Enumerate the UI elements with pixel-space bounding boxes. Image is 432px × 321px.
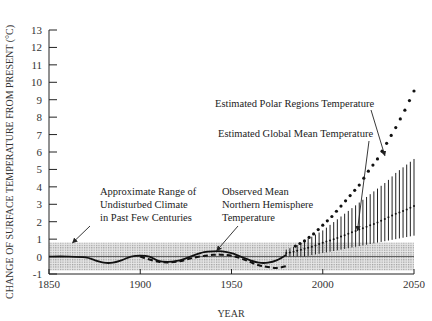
global-mean-point: [377, 222, 379, 224]
global-mean-point: [387, 216, 389, 218]
global-mean-point: [355, 230, 357, 232]
annotation-arrow: [73, 226, 90, 243]
x-tick-label: 2050: [403, 278, 426, 290]
polar-temperature-point: [326, 219, 329, 222]
y-tick-label: 8: [37, 111, 43, 123]
global-mean-point: [395, 213, 397, 215]
polar-temperature-point: [344, 199, 347, 202]
x-axis-title: YEAR: [217, 308, 245, 319]
polar-temperature-point: [390, 134, 393, 137]
global-mean-point: [351, 231, 353, 233]
global-mean-point: [398, 211, 400, 213]
global-mean-point: [344, 234, 346, 236]
polar-temperature-point: [303, 239, 306, 242]
global-mean-point: [296, 250, 298, 252]
polar-temperature-point: [298, 242, 301, 245]
y-tick-label: 3: [37, 198, 43, 210]
global-mean-point: [340, 236, 342, 238]
polar-temperature-point: [412, 89, 415, 92]
polar-temperature-point: [367, 170, 370, 173]
polar-temperature-point: [321, 224, 324, 227]
global-mean-point: [347, 233, 349, 235]
global-mean-point: [406, 209, 408, 211]
polar-temperature-point: [353, 189, 356, 192]
annotation-polar: Estimated Polar Regions Temperature: [215, 98, 385, 155]
global-mean-point: [362, 227, 364, 229]
global-mean-point: [325, 241, 327, 243]
polar-temperature-point: [330, 215, 333, 218]
y-tick-label: 1: [37, 233, 43, 245]
y-tick-label: 13: [31, 24, 43, 36]
polar-temperature-point: [399, 117, 402, 120]
global-mean-point: [384, 218, 386, 220]
temperature-chart: -101234567891011121318501900195020002050…: [0, 0, 432, 321]
global-mean-point: [311, 246, 313, 248]
y-tick-label: 5: [37, 163, 43, 175]
global-mean-point: [366, 226, 368, 228]
global-mean-point: [289, 251, 291, 253]
annotation-text: Estimated Global Mean Temperature: [218, 128, 373, 139]
x-tick-label: 2000: [312, 278, 335, 290]
polar-temperature-point: [307, 236, 310, 239]
x-tick-label: 1850: [38, 278, 61, 290]
y-tick-label: 12: [31, 41, 42, 53]
y-tick-label: 2: [37, 216, 43, 228]
x-tick-label: 1900: [129, 278, 152, 290]
global-mean-point: [314, 244, 316, 246]
annotation-undisturbed-range: Approximate Range ofUndisturbed Climatei…: [73, 186, 197, 243]
x-tick-label: 1950: [221, 278, 244, 290]
annotation-text: Estimated Polar Regions Temperature: [215, 98, 374, 109]
polar-temperature-point: [294, 245, 297, 248]
y-tick-label: 4: [37, 181, 43, 193]
global-mean-point: [304, 248, 306, 250]
polar-temperature-point: [335, 210, 338, 213]
annotation-text: Approximate Range of: [100, 186, 197, 197]
annotation-text: Temperature: [222, 212, 275, 223]
polar-temperature-point: [317, 228, 320, 231]
polar-temperature-point: [408, 99, 411, 102]
global-mean-point: [391, 215, 393, 217]
y-tick-label: 10: [31, 76, 43, 88]
global-mean-point: [322, 242, 324, 244]
global-mean-point: [285, 252, 287, 254]
y-tick-label: 0: [37, 251, 43, 263]
annotation-arrow: [371, 110, 385, 155]
y-tick-label: 9: [37, 94, 43, 106]
annotations: Estimated Polar Regions TemperatureEstim…: [73, 98, 385, 250]
global-mean-point: [336, 237, 338, 239]
data-series: [49, 89, 416, 268]
global-mean-point: [369, 224, 371, 226]
global-mean-point: [293, 251, 295, 253]
polar-temperature-point: [339, 204, 342, 207]
global-mean-point: [333, 238, 335, 240]
global-mean-point: [402, 210, 404, 212]
polar-temperature-point: [394, 126, 397, 129]
polar-temperature-point: [358, 184, 361, 187]
global-mean-point: [413, 205, 415, 207]
annotation-observed-nh: Observed MeanNorthern HemisphereTemperat…: [217, 186, 314, 250]
y-tick-label: 6: [37, 146, 43, 158]
polar-temperature-point: [312, 232, 315, 235]
annotation-text: Northern Hemisphere: [222, 199, 314, 210]
polar-temperature-point: [403, 109, 406, 112]
y-axis-title: CHANGE OF SURFACE TEMPERATURE FROM PRESE…: [4, 25, 16, 299]
polar-temperature-point: [376, 157, 379, 160]
global-mean-point: [373, 223, 375, 225]
annotation-text: in Past Few Centuries: [100, 212, 192, 223]
annotation-text: Undisturbed Climate: [100, 199, 188, 210]
global-mean-point: [329, 240, 331, 242]
global-mean-point: [358, 229, 360, 231]
global-mean-point: [307, 247, 309, 249]
global-mean-point: [318, 243, 320, 245]
polar-temperature-point: [385, 142, 388, 145]
polar-temperature-point: [371, 163, 374, 166]
y-tick-label: 11: [31, 59, 42, 71]
global-mean-point: [300, 249, 302, 251]
global-mean-point: [409, 207, 411, 209]
polar-temperature-point: [349, 194, 352, 197]
global-mean-point: [380, 220, 382, 222]
annotation-text: Observed Mean: [222, 186, 290, 197]
y-tick-label: 7: [37, 129, 43, 141]
